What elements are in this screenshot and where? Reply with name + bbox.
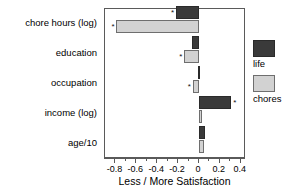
- plot-area: *****: [104, 8, 245, 158]
- chart-figure: chore hours (log)educationoccupationinco…: [0, 0, 308, 192]
- x-axis-title: Less / More Satisfaction: [104, 175, 245, 187]
- x-tick-0: [114, 159, 115, 163]
- x-minor-tick-1: [146, 159, 147, 161]
- x-tick-5: [219, 159, 220, 163]
- x-tick-1: [135, 159, 136, 163]
- x-minor-tick-2: [167, 159, 168, 161]
- legend: life chores: [253, 40, 305, 110]
- y-axis-category-labels: chore hours (log)educationoccupationinco…: [0, 8, 101, 158]
- x-tick-label-6: 0.4: [234, 164, 247, 174]
- legend-label-life: life: [253, 58, 305, 69]
- x-tick-label-3: -0.2: [169, 164, 185, 174]
- x-tick-label-0: -0.8: [107, 164, 123, 174]
- y-axis-label-4: age/10: [68, 138, 97, 148]
- x-minor-tick-3: [188, 159, 189, 161]
- x-tick-3: [177, 159, 178, 163]
- x-tick-2: [156, 159, 157, 163]
- bar-chores-4: [199, 140, 204, 153]
- y-axis-label-3: income (log): [45, 108, 97, 118]
- legend-entry-chores: chores: [253, 75, 305, 104]
- x-tick-label-4: 0: [195, 164, 200, 174]
- x-minor-tick-4: [208, 159, 209, 161]
- x-minor-tick-5: [229, 159, 230, 161]
- significance-marker-chores-0: *: [111, 23, 114, 31]
- x-tick-4: [198, 159, 199, 163]
- bar-life-2: [198, 66, 201, 79]
- bar-life-1: [192, 36, 199, 49]
- x-minor-tick-0: [125, 159, 126, 161]
- significance-marker-chores-1: *: [179, 53, 182, 61]
- bar-life-0: [176, 6, 199, 19]
- x-tick-label-2: -0.4: [148, 164, 164, 174]
- bar-chores-3: [199, 110, 202, 123]
- bar-life-4: [199, 126, 205, 139]
- x-tick-label-5: 0.2: [213, 164, 226, 174]
- y-axis-label-0: chore hours (log): [25, 18, 97, 28]
- y-axis-label-2: occupation: [51, 78, 97, 88]
- bar-chores-2: [193, 80, 199, 93]
- x-tick-6: [240, 159, 241, 163]
- legend-entry-life: life: [253, 40, 305, 69]
- y-axis-label-1: education: [56, 48, 97, 58]
- bar-chores-1: [184, 50, 199, 63]
- x-axis: -0.8-0.6-0.4-0.200.20.4: [104, 158, 245, 165]
- bars-container: *****: [105, 9, 244, 157]
- significance-marker-life-3: *: [233, 99, 236, 107]
- significance-marker-chores-2: *: [188, 83, 191, 91]
- x-tick-label-1: -0.6: [128, 164, 144, 174]
- legend-swatch-chores: [253, 75, 275, 92]
- legend-label-chores: chores: [253, 93, 305, 104]
- bar-chores-0: [116, 20, 199, 33]
- significance-marker-life-0: *: [171, 9, 174, 17]
- bar-life-3: [199, 96, 231, 109]
- legend-swatch-life: [253, 40, 275, 57]
